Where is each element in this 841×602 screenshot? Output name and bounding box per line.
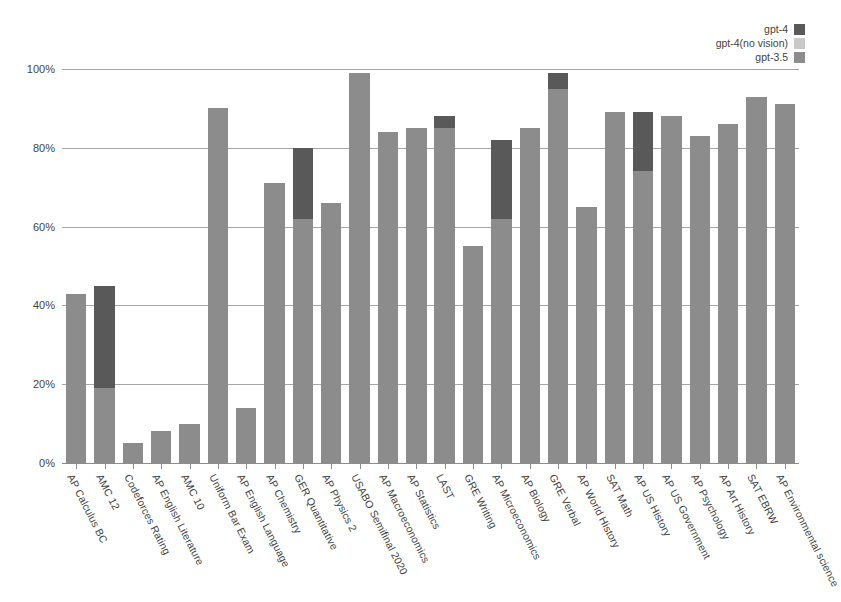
x-tick — [246, 463, 247, 469]
x-tick — [218, 463, 219, 469]
y-tick-label: 20% — [33, 378, 55, 390]
bar-segment-gpt-3.5 — [179, 424, 199, 463]
x-tick — [133, 463, 134, 469]
bar-group[interactable] — [236, 69, 256, 463]
x-tick — [530, 463, 531, 469]
x-tick — [105, 463, 106, 469]
x-tick — [388, 463, 389, 469]
x-tick-label: AP English Language — [236, 472, 293, 569]
bar-segment-gpt-3.5 — [491, 219, 511, 463]
legend-item-gpt-4[interactable]: gpt-4 — [764, 24, 805, 35]
x-tick — [615, 463, 616, 469]
bar-segment-gpt-3.5 — [321, 203, 341, 463]
bar-segment-gpt-3.5 — [633, 171, 653, 463]
y-tick-label: 40% — [33, 299, 55, 311]
plot-area: 0%20%40%60%80%100% — [62, 69, 799, 463]
bar-group[interactable] — [633, 69, 653, 463]
legend-label: gpt-4(no vision) — [716, 38, 788, 49]
bar-segment-gpt-3.5 — [746, 97, 766, 463]
bar-segment-gpt-3.5 — [66, 294, 86, 463]
bar-segment-gpt-4 — [434, 116, 454, 128]
bar-segment-gpt-3.5 — [151, 431, 171, 463]
x-tick — [728, 463, 729, 469]
bar-segment-gpt-3.5 — [123, 443, 143, 463]
legend-label: gpt-3.5 — [755, 52, 788, 63]
bar-group[interactable] — [491, 69, 511, 463]
bar-group[interactable] — [406, 69, 426, 463]
bar-segment-gpt-3.5 — [264, 183, 284, 463]
bar-group[interactable] — [349, 69, 369, 463]
x-tick — [416, 463, 417, 469]
bar-group[interactable] — [690, 69, 710, 463]
legend-swatch-gpt-4-no-vision — [794, 38, 805, 49]
y-tick-label: 0% — [39, 457, 55, 469]
x-tick — [161, 463, 162, 469]
bars-layer — [62, 69, 799, 463]
y-tick-label: 100% — [27, 63, 55, 75]
legend-swatch-gpt-3.5 — [794, 52, 805, 63]
bar-group[interactable] — [208, 69, 228, 463]
bar-group[interactable] — [463, 69, 483, 463]
x-tick — [501, 463, 502, 469]
bar-segment-gpt-3.5 — [576, 207, 596, 463]
bar-segment-gpt-3.5 — [293, 219, 313, 463]
bar-segment-gpt-3.5 — [661, 116, 681, 463]
x-tick — [76, 463, 77, 469]
x-tick-label: AP Macroeconomics — [377, 472, 432, 565]
bar-segment-gpt-4 — [491, 140, 511, 219]
bar-group[interactable] — [94, 69, 114, 463]
bar-group[interactable] — [179, 69, 199, 463]
bar-group[interactable] — [293, 69, 313, 463]
bar-group[interactable] — [605, 69, 625, 463]
x-tick — [586, 463, 587, 469]
x-tick — [473, 463, 474, 469]
x-tick — [275, 463, 276, 469]
x-tick — [303, 463, 304, 469]
bar-segment-gpt-3.5 — [605, 112, 625, 463]
bar-group[interactable] — [123, 69, 143, 463]
bar-segment-gpt-4 — [633, 112, 653, 171]
bar-group[interactable] — [66, 69, 86, 463]
legend-item-gpt-3.5[interactable]: gpt-3.5 — [755, 52, 805, 63]
x-tick-label: AP English Literature — [151, 472, 207, 567]
bar-segment-gpt-3.5 — [236, 408, 256, 463]
bar-segment-gpt-4 — [94, 286, 114, 388]
legend-label: gpt-4 — [764, 24, 788, 35]
x-tick — [360, 463, 361, 469]
x-tick — [756, 463, 757, 469]
x-tick-label: AMC 10 — [179, 472, 207, 512]
bar-segment-gpt-3.5 — [463, 246, 483, 463]
x-tick — [558, 463, 559, 469]
bar-group[interactable] — [434, 69, 454, 463]
x-tick — [700, 463, 701, 469]
y-tick-label: 60% — [33, 221, 55, 233]
chart-legend: gpt-4gpt-4(no vision)gpt-3.5 — [716, 24, 805, 63]
bar-group[interactable] — [151, 69, 171, 463]
bar-group[interactable] — [746, 69, 766, 463]
bar-segment-gpt-3.5 — [208, 108, 228, 463]
legend-swatch-gpt-4 — [794, 24, 805, 35]
bar-group[interactable] — [548, 69, 568, 463]
x-tick — [331, 463, 332, 469]
bar-segment-gpt-3.5 — [548, 89, 568, 463]
x-tick — [643, 463, 644, 469]
x-tick — [190, 463, 191, 469]
bar-group[interactable] — [520, 69, 540, 463]
bar-segment-gpt-3.5 — [775, 104, 795, 463]
x-tick — [671, 463, 672, 469]
bar-group[interactable] — [264, 69, 284, 463]
bar-group[interactable] — [718, 69, 738, 463]
bar-segment-gpt-3.5 — [349, 73, 369, 463]
bar-group[interactable] — [321, 69, 341, 463]
bar-segment-gpt-3.5 — [406, 128, 426, 463]
bar-group[interactable] — [576, 69, 596, 463]
bar-segment-gpt-3.5 — [690, 136, 710, 463]
x-tick — [785, 463, 786, 469]
bar-group[interactable] — [378, 69, 398, 463]
legend-item-gpt-4-no-vision[interactable]: gpt-4(no vision) — [716, 38, 805, 49]
bar-segment-gpt-4 — [293, 148, 313, 219]
bar-group[interactable] — [775, 69, 795, 463]
bar-group[interactable] — [661, 69, 681, 463]
x-tick — [445, 463, 446, 469]
